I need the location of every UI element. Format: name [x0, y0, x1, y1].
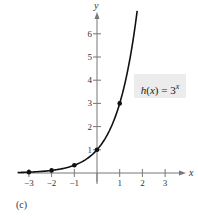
x-tick-label: −3	[24, 178, 34, 188]
data-point	[117, 101, 122, 106]
x-tick-label: −1	[70, 178, 80, 188]
x-tick-label: 3	[163, 178, 168, 188]
x-axis-label: x	[188, 167, 194, 178]
data-point	[95, 148, 100, 153]
y-tick-label: 3	[88, 98, 93, 108]
figure-caption: (c)	[16, 199, 27, 210]
x-tick-label: −2	[47, 178, 57, 188]
function-curve	[18, 11, 138, 173]
function-label: h(x) = 3x	[134, 74, 186, 98]
y-tick-label: 5	[88, 52, 93, 62]
y-tick-label: 1	[88, 145, 93, 155]
data-point	[27, 170, 32, 175]
x-tick-label: 2	[140, 178, 145, 188]
chart-plot: xy−3−2−1123123456	[0, 0, 198, 218]
y-tick-label: 2	[88, 122, 93, 132]
data-point	[49, 168, 54, 173]
data-point	[72, 163, 77, 168]
y-axis-arrow-icon	[95, 12, 100, 19]
x-tick-label: 1	[117, 178, 122, 188]
y-tick-label: 4	[88, 75, 93, 85]
y-tick-label: 6	[88, 29, 93, 39]
y-axis-label: y	[93, 0, 99, 11]
x-axis-arrow-icon	[179, 171, 186, 176]
